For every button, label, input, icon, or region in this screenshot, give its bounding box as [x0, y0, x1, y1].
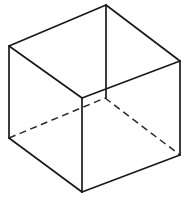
cube-figure — [0, 0, 189, 197]
cube-diagram — [0, 0, 189, 197]
